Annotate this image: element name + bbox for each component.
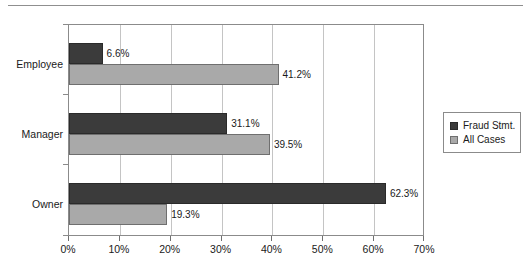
x-tick-label-20: 20%	[159, 243, 180, 255]
bar-value-all-manager: 39.5%	[270, 134, 302, 155]
bar-all-employee	[69, 64, 279, 85]
bar-value-fraud-owner: 62.3%	[386, 183, 418, 204]
x-tick-label-60: 60%	[363, 243, 384, 255]
x-tick-0	[68, 236, 69, 241]
bar-chart: Employee Manager Owner 6.6% 41.2% 31.1% …	[0, 0, 531, 270]
category-label-owner: Owner	[1, 198, 63, 210]
category-axis: Employee Manager Owner	[0, 24, 63, 236]
x-tick-70	[423, 236, 424, 241]
x-tick-30	[221, 236, 222, 241]
x-axis-ticks	[68, 236, 424, 242]
x-tick-label-30: 30%	[210, 243, 231, 255]
legend-entry-fraud-stmt: Fraud Stmt.	[450, 119, 514, 132]
x-tick-label-40: 40%	[261, 243, 282, 255]
bar-all-owner	[69, 204, 167, 225]
bar-value-fraud-manager: 31.1%	[227, 113, 259, 134]
bar-value-all-owner: 19.3%	[167, 204, 199, 225]
legend-label-fraud-stmt: Fraud Stmt.	[463, 120, 515, 131]
x-tick-20	[170, 236, 171, 241]
bar-fraud-employee	[69, 43, 103, 64]
x-tick-label-50: 50%	[312, 243, 333, 255]
x-tick-label-70: 70%	[413, 243, 434, 255]
legend-swatch-icon-all-cases	[450, 136, 458, 144]
x-tick-60	[373, 236, 374, 241]
legend-label-all-cases: All Cases	[463, 134, 505, 145]
bar-fraud-owner	[69, 183, 386, 204]
x-tick-40	[271, 236, 272, 241]
category-label-manager: Manager	[1, 128, 63, 140]
x-tick-10	[119, 236, 120, 241]
plot-area: 6.6% 41.2% 31.1% 39.5% 62.3% 19.3%	[68, 24, 424, 236]
bar-all-manager	[69, 134, 270, 155]
category-label-employee: Employee	[1, 58, 63, 70]
bar-fraud-manager	[69, 113, 227, 134]
legend-entry-all-cases: All Cases	[450, 133, 514, 146]
legend-swatch-icon-fraud-stmt	[450, 122, 458, 130]
bar-value-all-employee: 41.2%	[279, 64, 311, 85]
x-tick-50	[322, 236, 323, 241]
chart-legend: Fraud Stmt. All Cases	[443, 112, 521, 153]
page-top-rule	[8, 5, 523, 6]
x-tick-label-0: 0%	[60, 243, 75, 255]
bar-value-fraud-employee: 6.6%	[103, 43, 130, 64]
x-tick-label-10: 10%	[108, 243, 129, 255]
